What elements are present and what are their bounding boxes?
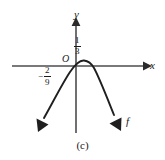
signed-fraction-minus-two-ninths: − 2 9 <box>38 66 51 87</box>
x-axis <box>12 62 152 71</box>
fraction-denominator: 3 <box>74 47 81 56</box>
x-axis-label: x <box>150 60 155 71</box>
fraction-two-ninths: 2 9 <box>44 66 51 87</box>
graph-canvas <box>0 0 165 160</box>
figure-caption: (c) <box>0 140 165 151</box>
fraction-one-third: 1 3 <box>74 36 81 57</box>
y-axis-label: y <box>74 9 79 20</box>
origin-label: O <box>62 54 69 64</box>
function-graph-figure: y x O 1 3 − 2 9 f (c) <box>0 0 165 160</box>
curve-right-arrowhead <box>110 118 122 132</box>
curve-label-f: f <box>126 116 129 127</box>
curve-left-arrowhead <box>37 119 49 133</box>
fraction-denominator: 9 <box>44 78 51 87</box>
minus-sign: − <box>38 72 43 81</box>
x-intercept-annotation: 1 3 <box>74 36 81 57</box>
fraction-numerator: 2 <box>44 66 51 75</box>
fraction-numerator: 1 <box>74 36 81 45</box>
y-value-annotation: − 2 9 <box>38 66 51 87</box>
